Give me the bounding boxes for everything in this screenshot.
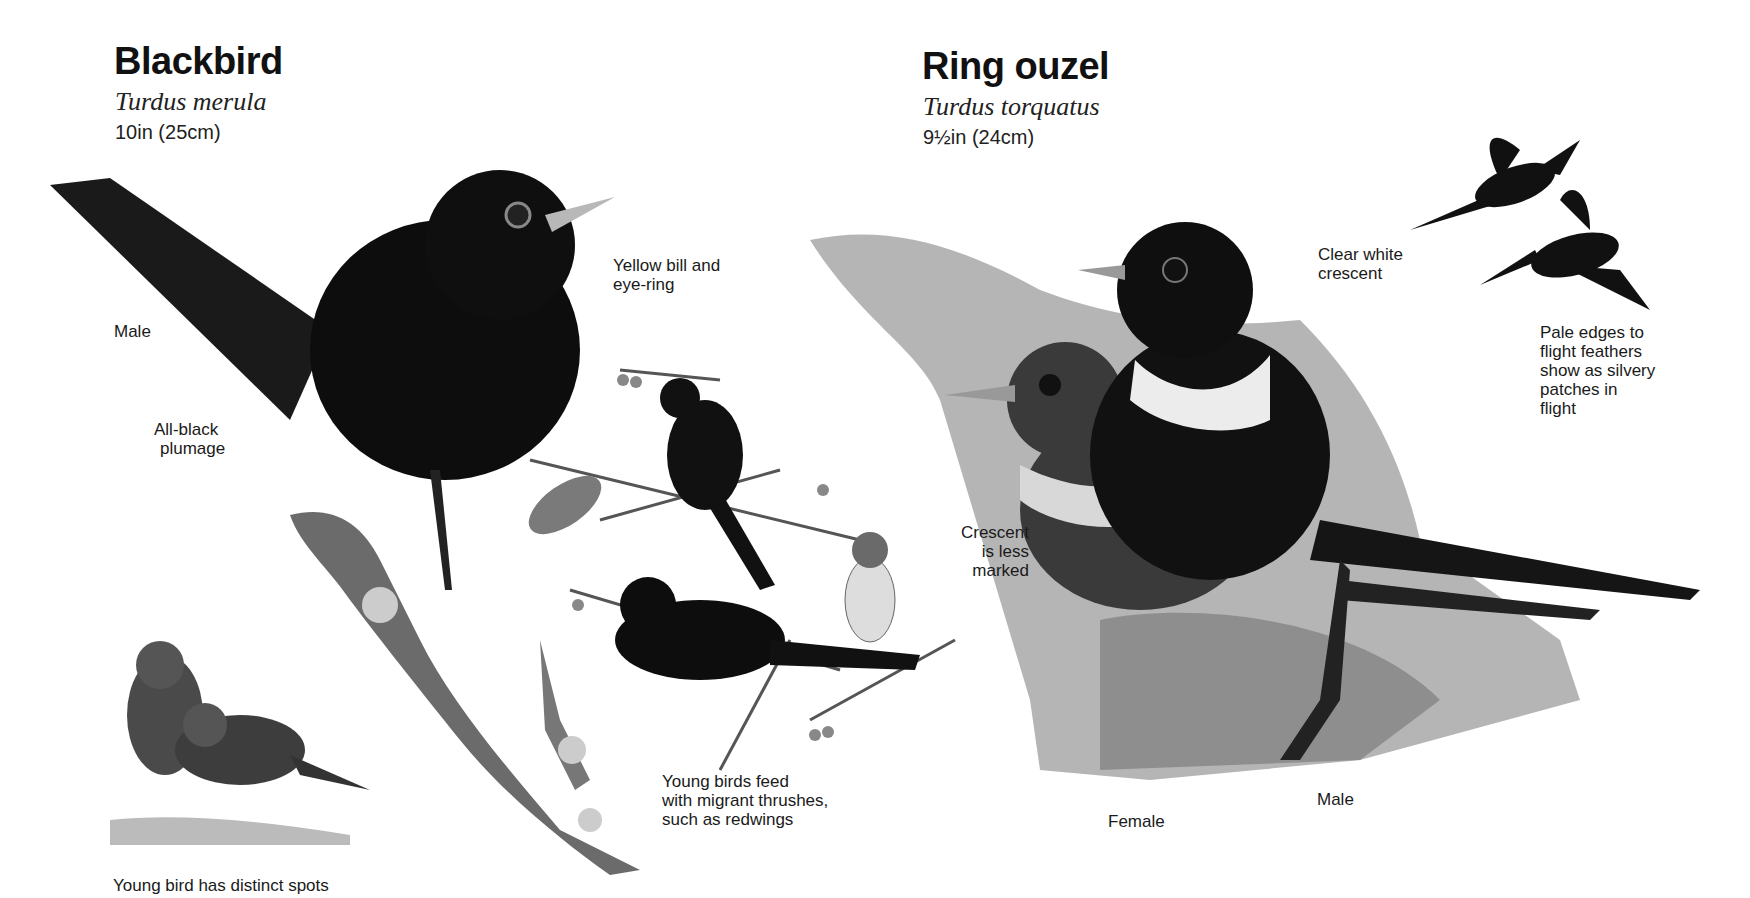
label-young-bird-spots: Young bird has distinct spots bbox=[113, 876, 329, 895]
label-line: is less bbox=[940, 542, 1029, 561]
label-line: show as silvery bbox=[1540, 361, 1655, 380]
label-line: patches in bbox=[1540, 380, 1655, 399]
label-line: All-black bbox=[154, 420, 225, 439]
label-line: eye-ring bbox=[613, 275, 720, 294]
label-line: Young birds feed bbox=[662, 772, 828, 791]
label-line: such as redwings bbox=[662, 810, 828, 829]
ring-ouzel-illustration bbox=[800, 0, 1700, 898]
label-line: crescent bbox=[1318, 264, 1403, 283]
label-yellow-bill: Yellow bill and eye-ring bbox=[613, 256, 720, 294]
label-blackbird-male: Male bbox=[114, 322, 151, 341]
label-pale-edges-flight: Pale edges to flight feathers show as si… bbox=[1540, 323, 1655, 418]
label-ring-ouzel-male: Male bbox=[1317, 790, 1354, 809]
label-line: with migrant thrushes, bbox=[662, 791, 828, 810]
label-line: flight bbox=[1540, 399, 1655, 418]
label-line: marked bbox=[940, 561, 1029, 580]
label-crescent-less-marked: Crescent is less marked bbox=[940, 523, 1029, 580]
label-line: Yellow bill and bbox=[613, 256, 720, 275]
label-female: Female bbox=[1108, 812, 1165, 831]
label-line: Crescent bbox=[940, 523, 1029, 542]
blackbird-illustration bbox=[0, 0, 900, 898]
label-clear-white-crescent: Clear white crescent bbox=[1318, 245, 1403, 283]
label-line: Clear white bbox=[1318, 245, 1403, 264]
label-line: Pale edges to bbox=[1540, 323, 1655, 342]
label-young-birds-feed: Young birds feed with migrant thrushes, … bbox=[662, 772, 828, 829]
label-line: plumage bbox=[154, 439, 225, 458]
label-all-black-plumage: All-black plumage bbox=[154, 420, 225, 458]
label-line: flight feathers bbox=[1540, 342, 1655, 361]
